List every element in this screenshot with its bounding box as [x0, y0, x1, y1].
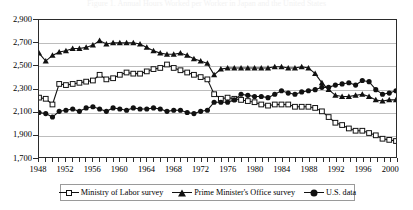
data-point — [144, 44, 150, 49]
y-axis-label: 2,100 — [0, 107, 32, 116]
x-axis-tick — [201, 158, 202, 162]
x-axis-tick — [106, 158, 107, 162]
data-point — [178, 108, 183, 113]
data-point — [124, 108, 129, 113]
x-axis-tick — [336, 158, 337, 162]
x-axis-tick — [275, 158, 276, 162]
x-axis-tick — [363, 158, 364, 162]
x-axis-tick — [302, 158, 303, 162]
x-axis-tick — [119, 158, 120, 162]
x-axis-label: 2000 — [370, 165, 410, 174]
data-point — [43, 111, 48, 116]
data-point — [177, 50, 183, 55]
data-point — [97, 106, 102, 111]
x-axis-tick — [214, 158, 215, 162]
data-point — [185, 110, 190, 115]
data-point — [299, 89, 304, 94]
data-point — [90, 42, 96, 47]
data-point — [279, 102, 284, 107]
data-point — [39, 95, 41, 100]
data-point — [144, 69, 149, 74]
series-layer — [39, 20, 396, 157]
data-point — [63, 108, 68, 113]
x-axis-tick — [38, 158, 39, 162]
data-point — [77, 109, 82, 114]
x-axis-tick — [316, 158, 317, 162]
x-axis-tick — [79, 158, 80, 162]
data-point — [218, 100, 223, 105]
data-point — [279, 88, 284, 93]
data-point — [299, 64, 305, 69]
data-point — [353, 128, 358, 133]
x-axis-tick — [289, 158, 290, 162]
x-axis-tick — [309, 158, 310, 162]
y-axis-tick — [33, 65, 38, 66]
data-point — [353, 83, 358, 88]
x-axis-tick — [153, 158, 154, 162]
data-point — [50, 102, 55, 107]
filled-circle-marker-icon — [304, 188, 324, 198]
data-point — [359, 91, 365, 96]
data-point — [245, 99, 250, 104]
y-axis-label: 2,500 — [0, 61, 32, 70]
data-point — [387, 138, 392, 143]
data-point — [151, 105, 156, 110]
x-axis-tick — [323, 158, 324, 162]
data-point — [49, 52, 55, 57]
data-point — [272, 102, 277, 107]
data-point — [77, 80, 82, 85]
series-line — [39, 65, 396, 141]
data-point — [171, 108, 176, 113]
y-axis-label: 2,300 — [0, 84, 32, 93]
x-axis-tick — [113, 158, 114, 162]
data-point — [393, 88, 396, 93]
x-axis-tick — [174, 158, 175, 162]
data-point — [212, 100, 217, 105]
data-point — [70, 106, 75, 111]
x-axis-tick — [228, 158, 229, 162]
legend-item-prime-ministers-office-survey: Prime Minister's Office survey — [172, 188, 295, 198]
data-point — [158, 66, 163, 71]
y-axis-tick — [33, 19, 38, 20]
x-axis-tick — [356, 158, 357, 162]
x-axis-tick — [390, 158, 391, 162]
data-point — [266, 103, 271, 108]
y-axis-tick — [33, 42, 38, 43]
data-point — [185, 70, 190, 75]
y-axis-tick — [33, 89, 38, 90]
x-axis-tick — [255, 158, 256, 162]
data-point — [259, 102, 264, 107]
data-point — [104, 109, 109, 114]
x-axis-tick — [343, 158, 344, 162]
data-point — [239, 98, 244, 103]
x-axis-tick — [167, 158, 168, 162]
data-point — [306, 88, 311, 93]
data-point — [111, 76, 116, 81]
x-axis-tick — [45, 158, 46, 162]
data-point — [165, 62, 170, 67]
data-point — [171, 66, 176, 71]
x-axis-tick — [99, 158, 100, 162]
data-point — [245, 93, 250, 98]
x-axis-tick — [207, 158, 208, 162]
data-point — [84, 105, 89, 110]
x-axis-tick — [350, 158, 351, 162]
data-point — [252, 94, 257, 99]
data-point — [380, 92, 385, 97]
series-line — [39, 41, 396, 102]
data-point — [178, 68, 183, 73]
data-point — [319, 85, 324, 90]
legend-label: Prime Minister's Office survey — [194, 188, 295, 197]
data-point — [97, 72, 102, 77]
y-axis-label: 2,700 — [0, 38, 32, 47]
x-axis-tick — [384, 158, 385, 162]
data-point — [326, 85, 331, 90]
data-point — [198, 109, 203, 114]
data-point — [124, 70, 129, 75]
x-axis-tick — [126, 158, 127, 162]
data-point — [150, 48, 156, 53]
data-point — [373, 87, 378, 92]
x-axis-tick — [140, 158, 141, 162]
data-point — [104, 77, 109, 82]
data-point — [151, 67, 156, 72]
